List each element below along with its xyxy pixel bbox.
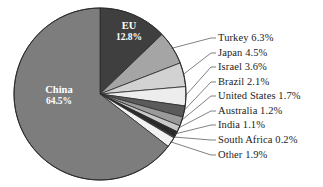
slice-label-eu-name: EU <box>108 20 150 32</box>
slice-label-eu-percent: 12.8% <box>108 32 150 43</box>
leader-line-israel <box>185 67 216 96</box>
pie-chart-figure: EU 12.8%Turkey 6.3%Japan 4.5%Israel 3.6%… <box>0 0 323 187</box>
callout-label-united: United States 1.7% <box>218 91 301 102</box>
leader-line-brazil <box>183 82 216 111</box>
slice-label-china: China 64.5% <box>28 84 90 106</box>
slice-label-eu: EU 12.8% <box>108 20 150 42</box>
callout-label-other: Other 1.9% <box>218 150 267 161</box>
leader-line-japan <box>183 53 216 75</box>
leader-line-other <box>170 142 216 155</box>
slice-label-china-name: China <box>28 84 90 96</box>
slice-label-china-percent: 64.5% <box>28 96 90 107</box>
callout-label-australia: Australia 1.2% <box>218 106 282 117</box>
leader-line-south-africa <box>173 137 216 140</box>
callout-label-turkey: Turkey 6.3% <box>218 33 274 44</box>
callout-label-israel: Israel 3.6% <box>218 62 267 73</box>
callout-label-south: South Africa 0.2% <box>218 135 298 146</box>
leader-line-turkey <box>172 38 216 48</box>
callout-label-india: India 1.1% <box>218 120 265 131</box>
callout-label-brazil: Brazil 2.1% <box>218 77 269 88</box>
callout-label-japan: Japan 4.5% <box>218 48 267 59</box>
